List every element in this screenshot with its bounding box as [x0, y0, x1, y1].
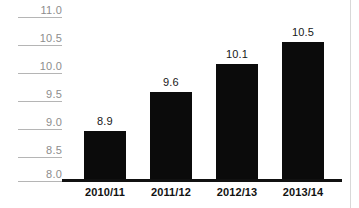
x-axis-category-label-3: 2013/14	[264, 186, 342, 198]
y-axis-tick-label: 8.0	[46, 169, 62, 180]
plot-area: 8.9 9.6 10.1 10.5	[62, 14, 340, 181]
y-axis-tick-4: 9.0	[18, 116, 62, 130]
bar	[84, 131, 126, 181]
page-edge-line	[350, 0, 351, 208]
y-axis-tick-1: 10.5	[18, 32, 62, 46]
y-axis-tick-rule	[18, 181, 62, 182]
bar	[216, 64, 258, 181]
y-axis-tick-label: 9.0	[46, 117, 62, 128]
y-axis-tick-5: 8.5	[18, 144, 62, 158]
bar-value-label: 10.1	[226, 49, 248, 60]
bar-chart: 11.0 10.5 10.0 9.5 9.0 8.5 8.0 8.9 9.6	[0, 0, 359, 208]
y-axis-tick-rule	[18, 157, 62, 158]
bar-value-label: 8.9	[97, 116, 113, 127]
bar-value-label: 9.6	[163, 77, 179, 88]
y-axis-tick-label: 10.0	[40, 61, 62, 72]
y-axis-tick-label: 10.5	[40, 33, 62, 44]
bar-group-3: 10.5	[282, 14, 324, 181]
y-axis-tick-2: 10.0	[18, 60, 62, 74]
y-axis-tick-rule	[18, 101, 62, 102]
y-axis-tick-rule	[18, 73, 62, 74]
y-axis-tick-6: 8.0	[18, 168, 62, 182]
bar	[282, 42, 324, 181]
y-axis-tick-label: 11.0	[41, 5, 62, 16]
bar-value-label: 10.5	[292, 27, 314, 38]
x-axis-line	[62, 179, 342, 182]
y-axis-tick-label: 9.5	[46, 89, 62, 100]
bar	[150, 92, 192, 181]
y-axis-tick-rule	[18, 17, 62, 18]
bar-group-1: 9.6	[150, 14, 192, 181]
y-axis-tick-rule	[18, 129, 62, 130]
y-axis-tick-0: 11.0	[18, 4, 62, 18]
y-axis-tick-rule	[18, 45, 62, 46]
bar-group-0: 8.9	[84, 14, 126, 181]
y-axis-tick-3: 9.5	[18, 88, 62, 102]
y-axis-tick-label: 8.5	[46, 145, 62, 156]
bar-group-2: 10.1	[216, 14, 258, 181]
